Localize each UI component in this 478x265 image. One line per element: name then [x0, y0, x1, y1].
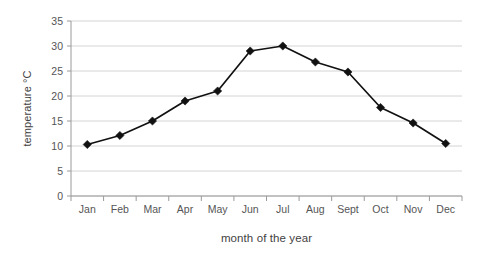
data-series-group: [83, 42, 450, 149]
y-tick-label: 15: [51, 115, 63, 127]
x-tick-label: Sept: [337, 203, 359, 215]
x-tick-label: Jul: [276, 203, 289, 215]
series-line-temperature: [87, 46, 445, 145]
y-tick-label: 10: [51, 140, 63, 152]
gridlines-group: [67, 21, 462, 196]
data-point-marker: [83, 140, 91, 148]
data-point-marker: [116, 131, 124, 139]
y-tick-label: 20: [51, 90, 63, 102]
x-tick-label: Aug: [306, 203, 325, 215]
temperature-line-chart: temperature °C 05101520253035 JanFebMarA…: [0, 0, 478, 265]
y-tick-label: 35: [51, 15, 63, 27]
x-tick-label: May: [208, 203, 229, 215]
x-tick-label: Feb: [111, 203, 129, 215]
y-tick-label: 30: [51, 40, 63, 52]
x-tick-label: Jan: [79, 203, 96, 215]
x-tick-label: Nov: [404, 203, 423, 215]
y-tick-label: 0: [57, 190, 63, 202]
x-tick-label: Oct: [372, 203, 388, 215]
data-point-marker: [148, 117, 156, 125]
axis-lines-group: [71, 21, 462, 196]
x-axis-title: month of the year: [71, 232, 462, 244]
x-tick-label: Dec: [436, 203, 455, 215]
x-tick-labels-group: JanFebMarAprMayJunJulAugSeptOctNovDec: [79, 203, 455, 215]
x-tick-label: Jun: [242, 203, 259, 215]
x-tick-label: Mar: [143, 203, 162, 215]
y-tick-labels-group: 05101520253035: [51, 15, 63, 202]
y-tick-label: 5: [57, 165, 63, 177]
data-point-marker: [181, 97, 189, 105]
x-tick-label: Apr: [177, 203, 194, 215]
x-tick-marks-group: [71, 196, 462, 201]
data-point-marker: [409, 119, 417, 127]
y-tick-label: 25: [51, 65, 63, 77]
data-point-marker: [279, 42, 287, 50]
chart-plot-area: 05101520253035 JanFebMarAprMayJunJulAugS…: [0, 0, 478, 265]
data-point-marker: [311, 58, 319, 66]
